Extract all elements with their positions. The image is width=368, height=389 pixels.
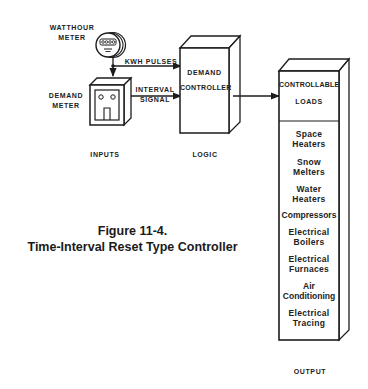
watthour-meter-icon — [96, 33, 126, 58]
output-section-label: OUTPUT — [285, 367, 335, 377]
watthour-meter-label-line2: METER — [46, 33, 98, 43]
demand-meter-icon — [90, 78, 131, 125]
load-item-line1: Electrical — [279, 254, 339, 264]
logic-section-label: LOGIC — [185, 150, 225, 160]
kwh-pulses-label: KWH PULSES — [122, 57, 180, 67]
load-item-line1: Space — [279, 129, 339, 139]
demand-meter-label-line1: DEMAND — [46, 91, 86, 101]
controller-label-line1: DEMAND — [180, 68, 229, 78]
load-item-line1: Water — [279, 184, 339, 194]
load-item-line1: Snow — [279, 157, 339, 167]
load-item: Snow Melters — [279, 157, 339, 184]
load-item: Air Conditioning — [279, 281, 339, 308]
load-item-line1: Electrical — [279, 308, 339, 318]
load-item-line1: Air — [279, 281, 339, 291]
interval-signal-line1: INTERVAL — [132, 85, 178, 95]
watthour-meter-label: WATTHOUR METER — [46, 23, 98, 43]
demand-meter-label: DEMAND METER — [46, 91, 86, 111]
load-item-line1: Electrical — [279, 227, 339, 237]
load-item-line2: Melters — [279, 167, 339, 177]
load-item: Compressors — [279, 210, 339, 227]
interval-signal-label: INTERVAL SIGNAL — [132, 85, 178, 105]
figure-number: Figure 11-4. — [20, 223, 245, 239]
watthour-meter-label-line1: WATTHOUR — [46, 23, 98, 33]
load-item: Space Heaters — [279, 129, 339, 157]
interval-signal-line2: SIGNAL — [132, 95, 178, 105]
load-item-line2: Heaters — [279, 194, 339, 204]
load-item: Electrical Boilers — [279, 227, 339, 254]
load-item: Water Heaters — [279, 184, 339, 210]
controller-label-line2: CONTROLLER — [180, 83, 229, 93]
load-item-line2: Tracing — [279, 318, 339, 328]
load-item-line1: Compressors — [279, 210, 339, 220]
demand-meter-label-line2: METER — [46, 101, 86, 111]
loads-list: Space Heaters Snow Melters Water Heaters… — [279, 129, 339, 335]
load-item-line2: Boilers — [279, 237, 339, 247]
load-item: Electrical Tracing — [279, 308, 339, 335]
load-item-line2: Conditioning — [279, 291, 339, 301]
output-header-line1: CONTROLLABLE — [279, 80, 339, 90]
load-item-line2: Furnaces — [279, 264, 339, 274]
load-item-line2: Heaters — [279, 139, 339, 149]
figure-title: Time-Interval Reset Type Controller — [20, 239, 245, 255]
load-item: Electrical Furnaces — [279, 254, 339, 281]
inputs-section-label: INPUTS — [80, 150, 130, 160]
output-header-line2: LOADS — [279, 97, 339, 107]
figure-caption: Figure 11-4. Time-Interval Reset Type Co… — [20, 223, 245, 255]
